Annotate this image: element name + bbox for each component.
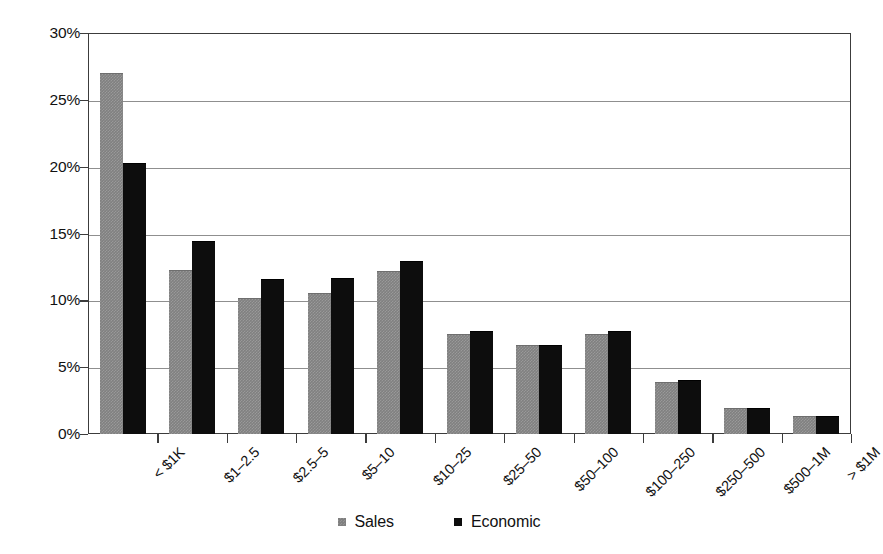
y-axis-tick-mark bbox=[80, 300, 88, 301]
legend-swatch-economic-icon bbox=[454, 518, 462, 526]
y-axis-tick-mark bbox=[80, 434, 88, 435]
bar-economic-7 bbox=[608, 331, 631, 434]
bar-economic-2 bbox=[261, 279, 284, 434]
x-axis-tick-mark bbox=[643, 434, 644, 443]
x-axis-tick-mark bbox=[435, 434, 436, 443]
x-axis-tick-label: > $1M bbox=[844, 444, 883, 483]
bar-sales-1 bbox=[169, 270, 192, 434]
y-axis-tick-labels: 0%5%10%15%20%25%30% bbox=[8, 0, 80, 554]
bar-economic-1 bbox=[192, 241, 215, 434]
bar-economic-9 bbox=[747, 408, 770, 434]
bar-economic-5 bbox=[470, 331, 493, 434]
y-axis-tick-label: 15% bbox=[24, 225, 80, 243]
bar-sales-8 bbox=[655, 382, 678, 434]
x-axis-tick-mark bbox=[782, 434, 783, 443]
bar-economic-6 bbox=[539, 345, 562, 434]
bar-economic-3 bbox=[331, 278, 354, 434]
legend-label: Sales bbox=[355, 513, 395, 531]
x-axis-tick-label: $500–1M bbox=[780, 444, 833, 497]
bar-economic-10 bbox=[816, 416, 839, 434]
x-axis-tick-label: $50–100 bbox=[571, 444, 621, 494]
bars-layer bbox=[88, 33, 851, 434]
x-axis-tick-mark bbox=[227, 434, 228, 443]
y-axis-tick-label: 5% bbox=[24, 358, 80, 376]
x-axis-tick-label: $10–25 bbox=[430, 444, 475, 489]
y-axis-tick-mark bbox=[80, 367, 88, 368]
legend-swatch-sales-icon bbox=[338, 518, 346, 526]
y-axis-tick-mark bbox=[80, 100, 88, 101]
y-axis-tick-mark bbox=[80, 167, 88, 168]
x-axis-tick-mark bbox=[296, 434, 297, 443]
y-axis-tick-label: 20% bbox=[24, 158, 80, 176]
bar-sales-3 bbox=[308, 293, 331, 434]
y-axis-tick-label: 0% bbox=[24, 425, 80, 443]
x-axis-tick-mark bbox=[574, 434, 575, 443]
x-axis-tick-mark bbox=[712, 434, 713, 443]
bar-sales-6 bbox=[516, 345, 539, 434]
x-axis-tick-labels: < $1K$1–2.5$2.5–5$5–10$10–25$25–50$50–10… bbox=[88, 434, 851, 524]
bar-sales-7 bbox=[585, 334, 608, 434]
x-axis-tick-mark bbox=[851, 434, 852, 443]
x-axis-tick-label: $25–50 bbox=[499, 444, 544, 489]
y-axis-tick-label: 10% bbox=[24, 291, 80, 309]
legend-item-economic: Economic bbox=[454, 513, 540, 531]
bar-sales-5 bbox=[447, 334, 470, 434]
bar-sales-2 bbox=[238, 298, 261, 434]
legend-label: Economic bbox=[471, 513, 540, 531]
x-axis-tick-label: $1–2.5 bbox=[221, 444, 263, 486]
bar-economic-0 bbox=[123, 163, 146, 434]
x-axis-tick-label: $100–250 bbox=[643, 444, 699, 500]
y-axis-tick-label: 30% bbox=[24, 24, 80, 42]
bar-sales-9 bbox=[724, 408, 747, 434]
x-axis-tick-label: < $1K bbox=[150, 444, 188, 482]
x-axis-tick-mark bbox=[504, 434, 505, 443]
x-axis-tick-mark bbox=[157, 434, 158, 443]
y-axis-tick-mark bbox=[80, 234, 88, 235]
bar-sales-0 bbox=[100, 73, 123, 434]
bar-economic-4 bbox=[400, 261, 423, 434]
chart-legend: SalesEconomic bbox=[0, 513, 878, 531]
x-axis-tick-label: $5–10 bbox=[358, 444, 397, 483]
y-axis-tick-label: 25% bbox=[24, 91, 80, 109]
bar-economic-8 bbox=[678, 380, 701, 434]
x-axis-tick-label: $2.5–5 bbox=[290, 444, 332, 486]
bar-sales-4 bbox=[377, 271, 400, 434]
bar-sales-10 bbox=[793, 416, 816, 434]
legend-item-sales: Sales bbox=[338, 513, 395, 531]
y-axis-tick-mark bbox=[80, 33, 88, 34]
x-axis-tick-mark bbox=[365, 434, 366, 443]
x-axis-tick-label: $250–500 bbox=[712, 444, 768, 500]
